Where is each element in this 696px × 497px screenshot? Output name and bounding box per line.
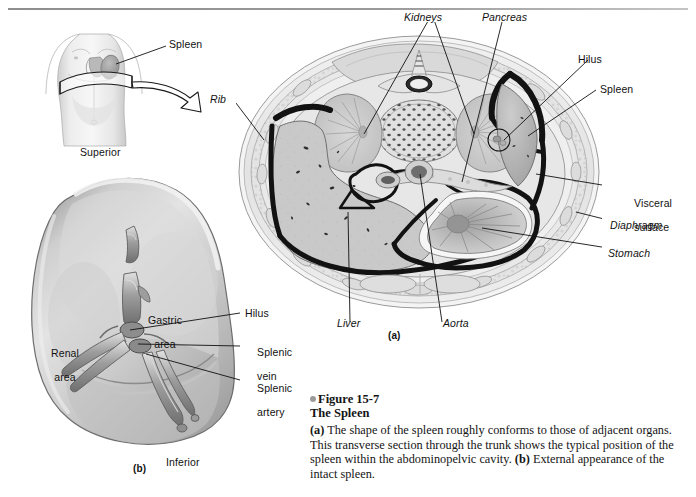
- label-inferior: Inferior: [166, 456, 199, 468]
- page-top-rule: [8, 8, 688, 10]
- section-arrow: [132, 82, 201, 112]
- gastric-area-line-2: area: [154, 338, 175, 350]
- figure-caption-body: (a) The shape of the spleen roughly conf…: [310, 423, 680, 481]
- label-hilus-spleen: Hilus: [245, 307, 269, 319]
- label-gastric-area: Gastric area: [133, 302, 185, 362]
- figure-number: Figure 15-7: [318, 392, 379, 406]
- splenic-artery-line-1: Splenic: [257, 382, 292, 394]
- label-visceral-surface: Visceral surface: [622, 185, 672, 245]
- figure-number-line: Figure 15-7: [310, 392, 680, 406]
- figure-caption: Figure 15-7 The Spleen (a) The shape of …: [310, 392, 680, 481]
- caption-marker-b: (b): [515, 452, 530, 466]
- label-stomach: Stomach: [608, 247, 650, 259]
- panel-marker-a: (a): [388, 330, 401, 342]
- panel-marker-b: (b): [133, 463, 146, 475]
- splenic-vein-line-1: Splenic: [257, 346, 292, 358]
- label-renal-area: Renal area: [36, 335, 82, 395]
- label-rib: Rib: [210, 93, 226, 105]
- transverse-section-illustration: [236, 22, 602, 334]
- label-superior: Superior: [80, 146, 121, 158]
- label-kidneys: Kidneys: [404, 11, 442, 23]
- bullet-icon: [310, 396, 316, 402]
- inset-label-spleen: Spleen: [169, 38, 202, 50]
- label-liver: Liver: [337, 317, 360, 329]
- renal-area-line-1: Renal: [51, 347, 79, 359]
- label-aorta: Aorta: [443, 317, 469, 329]
- visceral-surface-line-1: Visceral: [634, 197, 672, 209]
- splenic-artery-line-2: artery: [257, 406, 284, 418]
- figure-title: The Spleen: [310, 406, 680, 420]
- rectus-abdominis: [360, 274, 480, 294]
- caption-marker-a: (a): [310, 423, 324, 437]
- aorta: [405, 160, 433, 184]
- label-spleen-section: Spleen: [600, 83, 633, 95]
- torso-inset-illustration: [38, 30, 248, 150]
- inferior-vena-cava: [376, 172, 400, 188]
- gastric-area-line-1: Gastric: [148, 314, 182, 326]
- inset-spleen-leader: [116, 46, 166, 64]
- label-hilus-section: Hilus: [578, 53, 602, 65]
- label-diaphragm: Diaphragm: [610, 219, 662, 231]
- renal-area-line-2: area: [54, 371, 75, 383]
- figure-page: Spleen: [0, 0, 696, 497]
- label-pancreas: Pancreas: [482, 11, 527, 23]
- label-splenic-artery: Splenic artery: [245, 370, 292, 430]
